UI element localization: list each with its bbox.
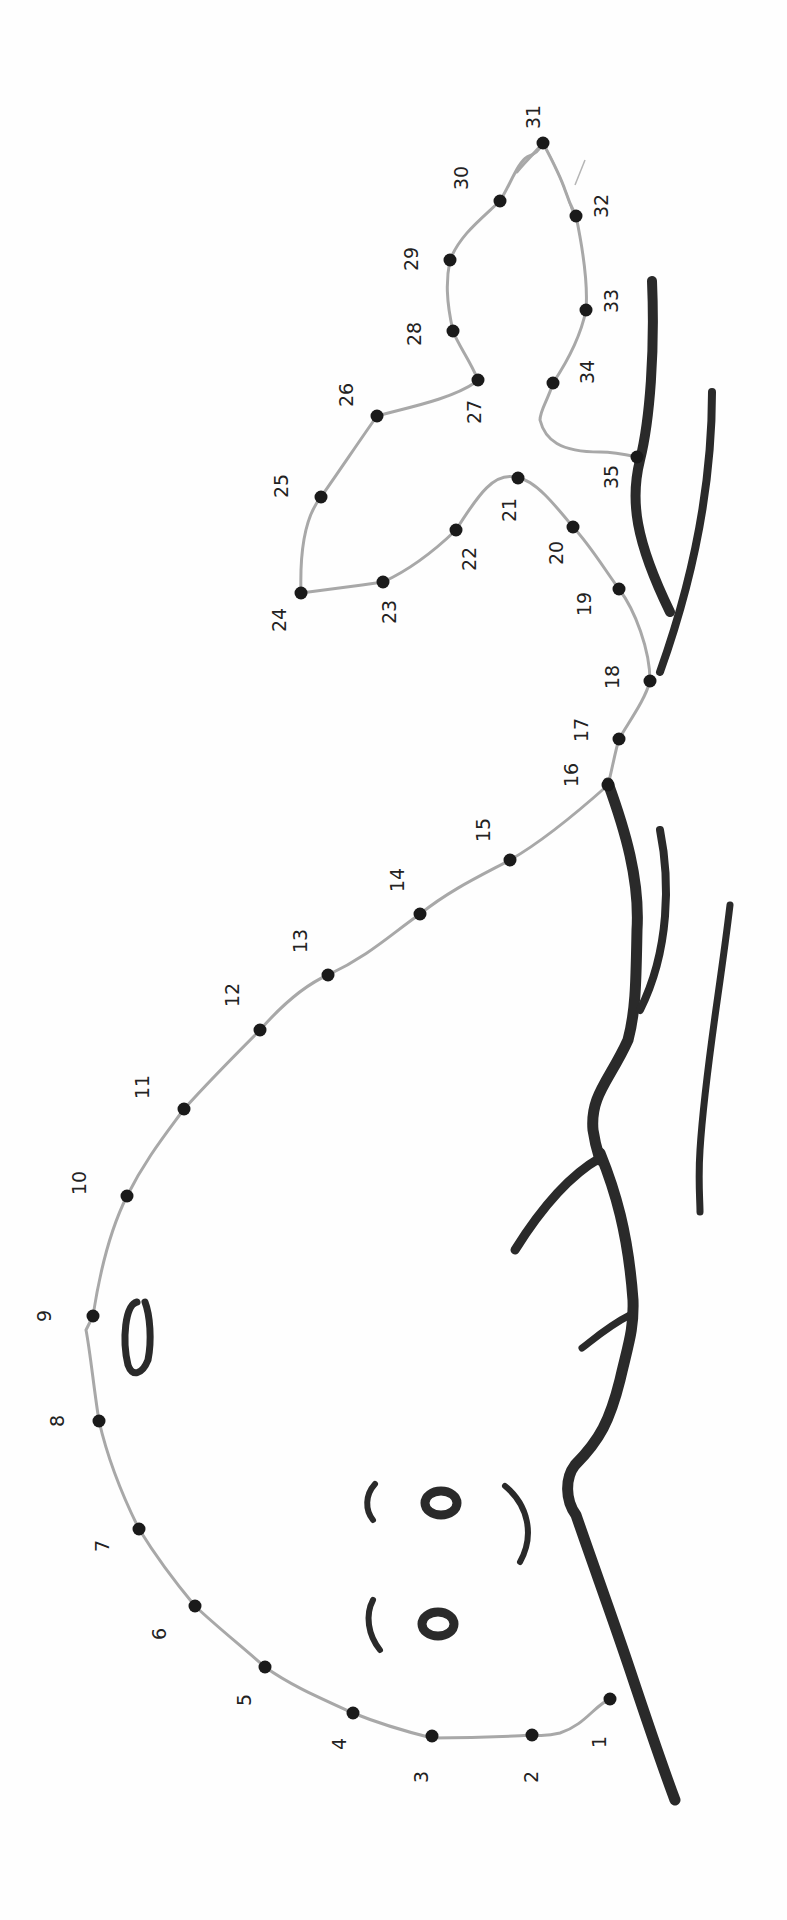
dot-label-32: 32 (590, 194, 612, 218)
dot-label-17: 17 (570, 718, 592, 742)
dot-label-4: 4 (328, 1738, 350, 1750)
dot-26 (371, 410, 384, 423)
dot-11 (178, 1103, 191, 1116)
dot-5 (259, 1661, 272, 1674)
dot-8 (93, 1415, 106, 1428)
dot-4 (347, 1707, 360, 1720)
numbered-dots: 1234567891011121314151617181920212223242… (33, 105, 657, 1783)
dot-label-23: 23 (378, 600, 400, 624)
dot-30 (494, 195, 507, 208)
worksheet-page: 1234567891011121314151617181920212223242… (0, 0, 787, 1920)
mouth-smile (505, 1486, 528, 1562)
dot-label-18: 18 (601, 665, 623, 689)
dot-18 (644, 675, 657, 688)
dot-23 (377, 576, 390, 589)
dot-32 (570, 210, 583, 223)
dot-28 (447, 325, 460, 338)
dot-31 (537, 137, 550, 150)
dot-1 (604, 1693, 617, 1706)
dot-25 (315, 491, 328, 504)
dot-label-15: 15 (472, 818, 494, 842)
dot-29 (444, 254, 457, 267)
dot-27 (472, 374, 485, 387)
eye-lower-icon (422, 1612, 454, 1636)
dot-label-31: 31 (522, 105, 544, 129)
dot-label-25: 25 (270, 474, 292, 498)
dot-label-1: 1 (588, 1736, 610, 1748)
dot-label-19: 19 (573, 592, 595, 616)
dot-9 (87, 1310, 100, 1323)
dot-label-11: 11 (131, 1075, 153, 1099)
dot-label-30: 30 (450, 166, 472, 190)
dot-16 (602, 779, 615, 792)
dot-label-20: 20 (545, 541, 567, 565)
dot-label-6: 6 (148, 1628, 170, 1640)
dot-label-33: 33 (600, 289, 622, 313)
dot-2 (526, 1729, 539, 1742)
dot-22 (450, 524, 463, 537)
dot-35 (631, 451, 644, 464)
dot-label-9: 9 (33, 1310, 55, 1322)
dot-20 (567, 521, 580, 534)
water-waves (515, 281, 730, 1800)
dot-label-26: 26 (335, 383, 357, 407)
dot-21 (512, 472, 525, 485)
dot-6 (189, 1600, 202, 1613)
dot-label-13: 13 (289, 929, 311, 953)
dot-12 (254, 1024, 267, 1037)
dot-14 (414, 908, 427, 921)
dot-3 (426, 1730, 439, 1743)
dot-label-5: 5 (233, 1694, 255, 1706)
dot-33 (580, 304, 593, 317)
dot-label-8: 8 (46, 1415, 68, 1427)
dot-label-34: 34 (576, 360, 598, 384)
dot-label-28: 28 (403, 322, 425, 346)
dot-label-29: 29 (400, 247, 422, 271)
dot-label-35: 35 (600, 465, 622, 489)
whale-face (125, 1302, 528, 1650)
dot-10 (121, 1190, 134, 1203)
eyebrow-upper (367, 1484, 375, 1520)
dot-label-16: 16 (560, 763, 582, 787)
dot-label-24: 24 (268, 608, 290, 632)
dot-label-21: 21 (498, 498, 520, 522)
dot-7 (133, 1523, 146, 1536)
dot-label-14: 14 (386, 868, 408, 892)
dot-label-27: 27 (463, 400, 485, 424)
blowhole-icon (125, 1302, 150, 1373)
dot-19 (613, 583, 626, 596)
dot-label-10: 10 (68, 1171, 90, 1195)
dot-label-22: 22 (458, 547, 480, 571)
dot-label-12: 12 (221, 983, 243, 1007)
dot-to-dot-drawing: 1234567891011121314151617181920212223242… (0, 0, 787, 1920)
dot-34 (547, 377, 560, 390)
eye-upper-icon (425, 1491, 457, 1515)
dot-13 (322, 969, 335, 982)
dot-label-2: 2 (520, 1771, 542, 1783)
dot-label-7: 7 (91, 1540, 113, 1552)
dot-label-3: 3 (410, 1771, 432, 1783)
dot-17 (613, 733, 626, 746)
dot-15 (504, 854, 517, 867)
eyebrow-lower (369, 1600, 380, 1650)
dot-24 (295, 587, 308, 600)
